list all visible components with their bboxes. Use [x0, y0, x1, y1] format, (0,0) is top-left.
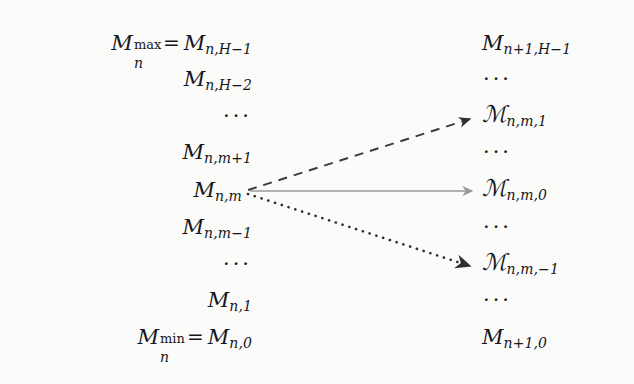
math-symbol-M: M	[208, 325, 230, 349]
row-ellipsis-lower: ···	[223, 249, 252, 279]
ellipsis: ···	[483, 67, 512, 91]
macrostate-transition-diagram: Mmaxn=Mn,H−1 Mn,H−2 ··· Mn,m+1 Mn,m Mn,m…	[0, 0, 634, 384]
math-symbol-script-M: ℳ	[482, 175, 507, 201]
math-symbol-M: M	[183, 140, 205, 164]
math-symbol-script-M: ℳ	[482, 249, 507, 275]
row-t-cal-m1: ℳn,m,−1	[482, 247, 559, 277]
subscript-n-0: n,0	[229, 335, 252, 351]
row-m-max: Mmaxn=Mn,H−1	[111, 28, 252, 58]
math-symbol-M: M	[138, 325, 160, 349]
transition-arrow-down	[248, 194, 470, 266]
math-symbol-M: M	[482, 31, 504, 55]
subscript-n-H-1: n,H−1	[205, 41, 252, 57]
row-t-cal-0: ℳn,m,0	[482, 173, 547, 203]
math-symbol-script-M: ℳ	[482, 101, 507, 127]
row-t-ellipsis-4: ···	[483, 285, 512, 315]
subscript-n-m: n,m	[215, 188, 242, 204]
subscript-n-m-minus-1: n,m−1	[204, 225, 252, 241]
math-symbol-M: M	[193, 178, 215, 202]
row-m-m: Mn,m	[193, 175, 242, 205]
math-symbol-M: M	[184, 31, 206, 55]
transition-arrow-up	[248, 119, 470, 190]
row-t-ellipsis-2: ···	[483, 137, 512, 167]
subscript-n-plus-1-H-1: n+1,H−1	[504, 41, 572, 57]
row-t-ellipsis-3: ···	[483, 212, 512, 242]
row-t-h-1: Mn+1,H−1	[482, 28, 571, 58]
math-symbol-M: M	[482, 325, 504, 349]
subscript-n-1: n,1	[229, 298, 252, 314]
math-symbol-M: M	[208, 288, 230, 312]
row-m-m-plus-1: Mn,m+1	[183, 137, 252, 167]
row-t-0: Mn+1,0	[482, 322, 547, 352]
row-ellipsis-upper: ···	[223, 101, 252, 131]
equals-sign: =	[183, 325, 208, 349]
subscript-n-plus-1-0: n+1,0	[504, 335, 548, 351]
math-symbol-M: M	[111, 31, 133, 55]
ellipsis: ···	[483, 215, 512, 239]
row-m-m-minus-1: Mn,m−1	[183, 212, 252, 242]
ellipsis: ···	[483, 140, 512, 164]
subscript-n-m-1: n,m,1	[507, 113, 548, 129]
math-symbol-M: M	[184, 67, 206, 91]
ellipsis: ···	[223, 104, 252, 128]
row-m-h-2: Mn,H−2	[184, 64, 252, 94]
ellipsis: ···	[483, 288, 512, 312]
row-m-min: Mminn=Mn,0	[138, 322, 252, 352]
subscript-n: n	[134, 48, 143, 78]
ellipsis: ···	[223, 252, 252, 276]
equals-sign: =	[159, 31, 184, 55]
source-macrostate-ladder: Mmaxn=Mn,H−1 Mn,H−2 ··· Mn,m+1 Mn,m Mn,m…	[0, 0, 252, 384]
subscript-n-H-2: n,H−2	[205, 77, 252, 93]
subscript-n-m-minus-1: n,m,−1	[507, 261, 559, 277]
row-m-1: Mn,1	[208, 285, 252, 315]
subscript-n-m-0: n,m,0	[507, 187, 548, 203]
subscript-n: n	[160, 342, 169, 372]
target-macrostate-ladder: Mn+1,H−1 ··· ℳn,m,1 ··· ℳn,m,0 ··· ℳn,m,…	[482, 0, 634, 384]
row-t-cal-1: ℳn,m,1	[482, 99, 547, 129]
subscript-n-m-plus-1: n,m+1	[204, 150, 252, 166]
math-symbol-M: M	[183, 215, 205, 239]
row-t-ellipsis-1: ···	[483, 64, 512, 94]
